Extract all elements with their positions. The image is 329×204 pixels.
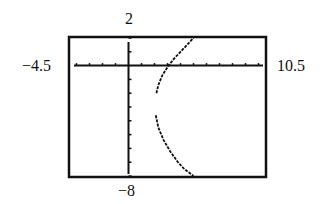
curve-branch (156, 115, 194, 176)
graph-window (0, 0, 329, 204)
curves (156, 38, 194, 176)
axes (74, 38, 263, 176)
plot-frame (69, 37, 266, 177)
